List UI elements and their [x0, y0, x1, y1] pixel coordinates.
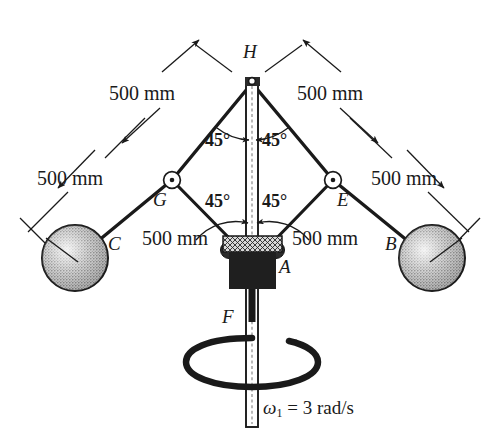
- angle-bottom-left: 45°: [205, 192, 230, 210]
- joint-E: [325, 172, 342, 189]
- dimension-inner-right: 500 mm: [292, 228, 358, 248]
- dimension-lower-right: 500 mm: [371, 168, 437, 188]
- label-point-A: A: [279, 257, 291, 276]
- mechanism-svg: [0, 0, 497, 429]
- dimension-upper-right: 500 mm: [297, 83, 363, 103]
- angle-top-left: 45°: [205, 131, 230, 149]
- omega-symbol: ω: [263, 397, 276, 418]
- dimension-upper-left: 500 mm: [109, 83, 175, 103]
- joint-G: [164, 172, 181, 189]
- omega-value: = 3 rad/s: [287, 397, 354, 418]
- angular-velocity-label: ω1 = 3 rad/s: [263, 398, 354, 419]
- sliding-collar-A: [221, 236, 285, 289]
- label-point-C: C: [108, 234, 121, 253]
- angle-bottom-right: 45°: [262, 192, 287, 210]
- omega-subscript: 1: [276, 406, 282, 420]
- apex-pivot-H: [245, 77, 260, 86]
- label-point-H: H: [243, 42, 257, 61]
- dimension-inner-left: 500 mm: [142, 228, 208, 248]
- sphere-B: [399, 225, 465, 291]
- figure-canvas: H G E A B C F 500 mm 500 mm 500 mm 500 m…: [0, 0, 497, 429]
- label-point-E: E: [337, 190, 349, 209]
- dimension-lower-left: 500 mm: [37, 168, 103, 188]
- label-point-G: G: [153, 190, 167, 209]
- sphere-C: [42, 225, 108, 291]
- angle-top-right: 45°: [262, 131, 287, 149]
- label-point-B: B: [385, 234, 397, 253]
- label-force-F: F: [222, 307, 234, 326]
